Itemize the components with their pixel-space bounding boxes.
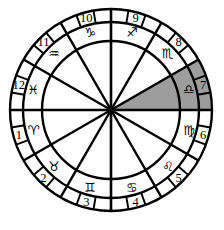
house-number-1: 1 [16,128,22,142]
house-number-2: 2 [40,171,46,185]
rim-tick [141,15,145,27]
rim-tick [141,193,145,205]
rim-tick [126,11,128,24]
wheel-canvas: 123456789101112 ♈♉♊♋♌♍♎♏♐♑♒♓ [0,0,224,230]
zodiac-glyph-leo: ♌ [162,159,174,174]
zodiac-glyph-sagittarius: ♐ [126,25,138,40]
house-number-7: 7 [200,78,206,92]
zodiac-glyph-cancer: ♋ [126,180,138,195]
rim-tick [126,197,128,210]
rim-tick [93,11,95,24]
center-hub-dot [107,106,115,114]
zodiac-glyph-pisces: ♓ [27,82,39,97]
house-number-4: 4 [133,195,140,209]
house-number-6: 6 [200,128,206,142]
house-number-3: 3 [83,195,89,209]
zodiac-glyph-gemini: ♊ [84,180,96,195]
house-number-8: 8 [175,35,181,49]
rim-tick [76,193,80,205]
zodiac-glyph-libra: ♎ [183,82,195,97]
rim-tick [93,197,95,210]
zodiac-glyph-scorpio: ♏ [162,46,174,61]
rim-tick [46,177,54,187]
rim-tick [12,92,25,94]
zodiac-glyph-taurus: ♉ [48,159,60,174]
zodiac-glyph-aquarius: ♒ [48,46,60,61]
zodiac-glyph-capricorn: ♑ [84,25,96,40]
house-number-9: 9 [133,11,139,25]
zodiac-glyph-aries: ♈ [27,123,39,138]
center-hub [107,106,115,114]
house-number-5: 5 [175,171,181,185]
zodiac-wheel-chart: 123456789101112 ♈♉♊♋♌♍♎♏♐♑♒♓ [0,0,224,230]
house-number-10: 10 [80,11,93,25]
zodiac-glyph-virgo: ♍ [183,123,195,138]
house-number-12: 12 [13,78,26,92]
